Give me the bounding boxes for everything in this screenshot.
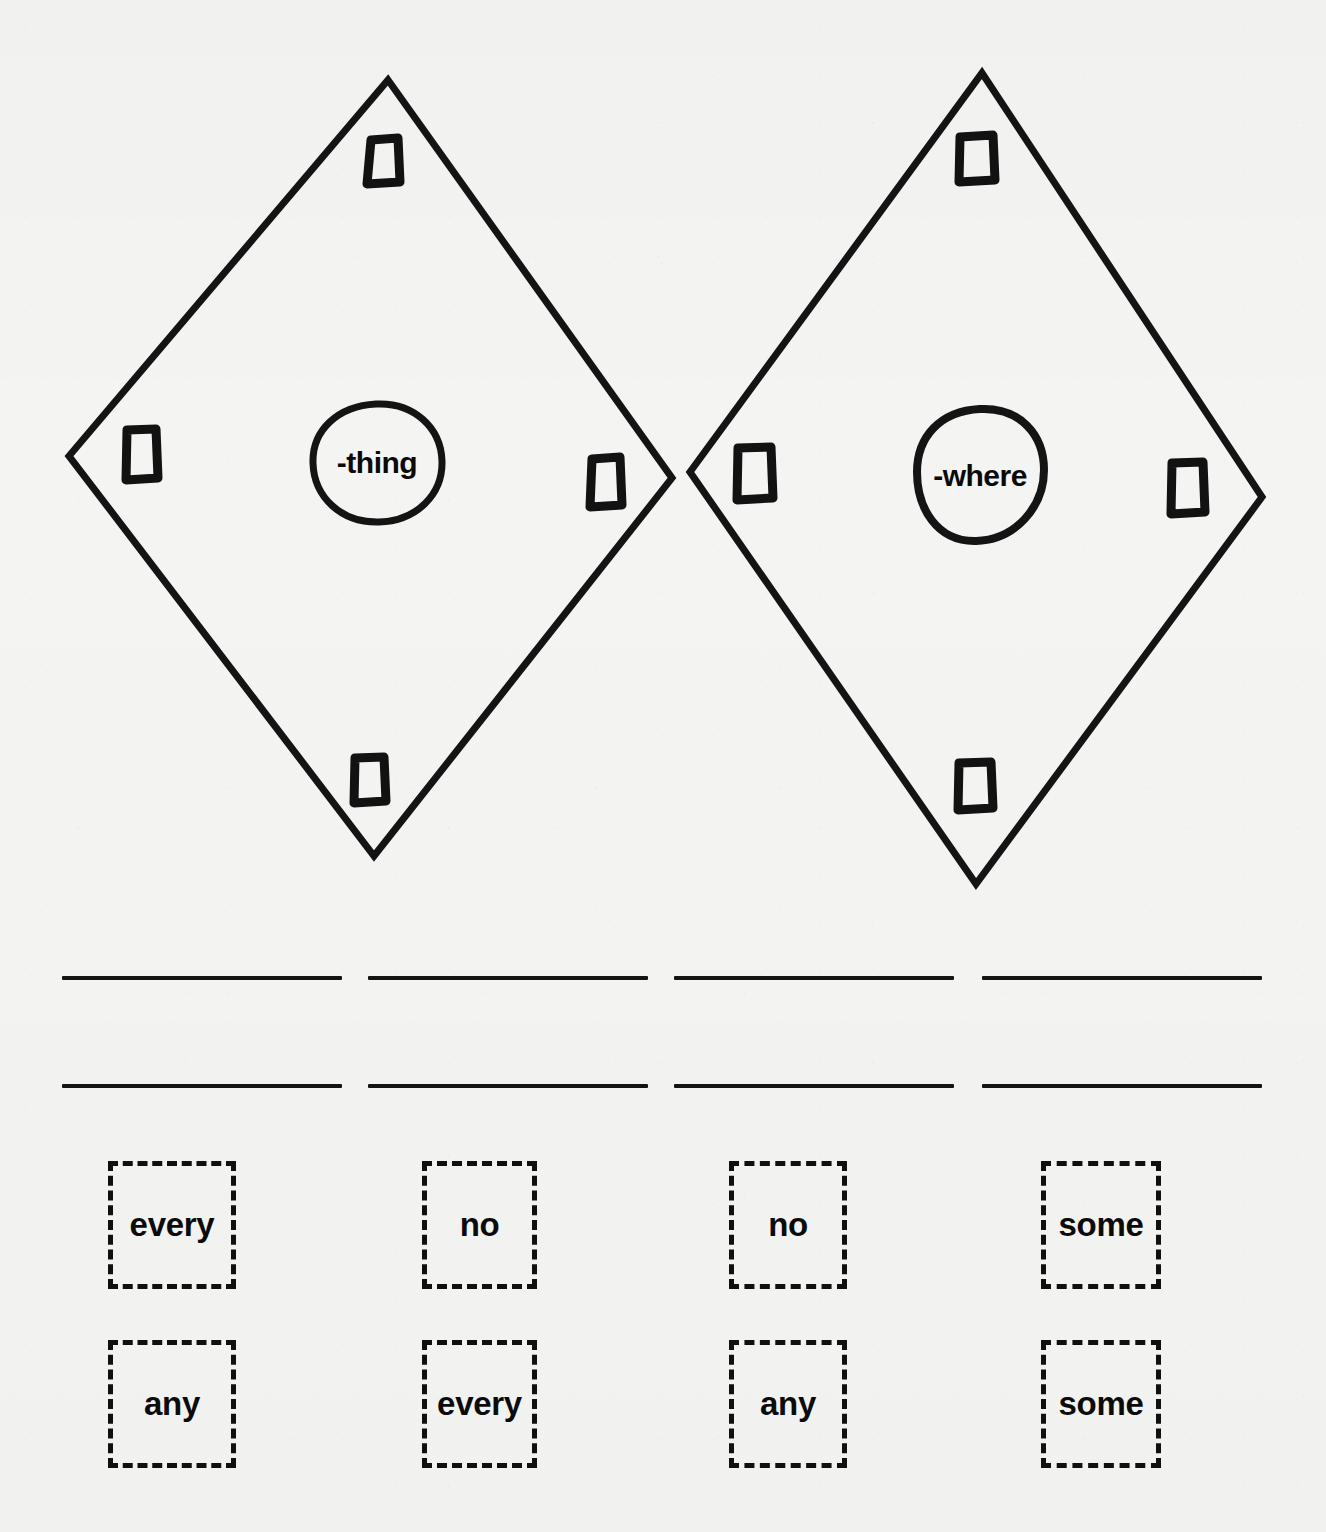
answer-line-row-2 [0, 1084, 1326, 1090]
word-box-label: no [460, 1206, 500, 1244]
diamond-thing-label: -thing [337, 446, 417, 480]
word-box-r1-c1[interactable]: every [108, 1161, 236, 1289]
word-bank-area: every no no some any every any some [0, 1140, 1326, 1532]
word-box-label: any [760, 1385, 816, 1423]
diagrams-canvas [0, 0, 1326, 940]
diamond-where-marker-left[interactable] [737, 447, 773, 500]
diamond-thing-marker-right[interactable] [590, 457, 622, 507]
word-box-r2-c4[interactable]: some [1041, 1340, 1161, 1468]
diamond-thing-marker-left[interactable] [126, 429, 158, 480]
diamond-where-marker-top[interactable] [959, 135, 995, 182]
word-box-r1-c4[interactable]: some [1041, 1161, 1161, 1289]
answer-line-r2-c2[interactable] [368, 1084, 648, 1088]
word-box-r1-c3[interactable]: no [729, 1161, 847, 1289]
answer-line-r2-c1[interactable] [62, 1084, 342, 1088]
word-box-r2-c1[interactable]: any [108, 1340, 236, 1468]
diamond-where-marker-right[interactable] [1171, 462, 1205, 514]
word-box-label: every [130, 1206, 215, 1244]
diamond-thing-marker-top[interactable] [367, 138, 400, 184]
word-box-label: no [768, 1206, 808, 1244]
word-box-label: some [1058, 1385, 1143, 1423]
answer-line-r2-c4[interactable] [982, 1084, 1262, 1088]
answer-line-r1-c3[interactable] [674, 976, 954, 980]
answer-line-row-1 [0, 976, 1326, 982]
word-box-label: any [144, 1385, 200, 1423]
diamond-thing-marker-bottom[interactable] [354, 757, 386, 803]
word-box-label: some [1058, 1206, 1143, 1244]
answer-line-r1-c1[interactable] [62, 976, 342, 980]
word-box-r2-c3[interactable]: any [729, 1340, 847, 1468]
answer-line-r2-c3[interactable] [674, 1084, 954, 1088]
answer-lines-area [0, 940, 1326, 1140]
word-box-r1-c2[interactable]: no [422, 1161, 537, 1289]
diamond-where-label: -where [933, 459, 1027, 493]
word-box-r2-c2[interactable]: every [422, 1340, 537, 1468]
diamond-where-marker-bottom[interactable] [958, 762, 993, 810]
diagram-area: -thing -where [0, 0, 1326, 940]
word-box-label: every [437, 1385, 522, 1423]
answer-line-r1-c4[interactable] [982, 976, 1262, 980]
answer-line-r1-c2[interactable] [368, 976, 648, 980]
